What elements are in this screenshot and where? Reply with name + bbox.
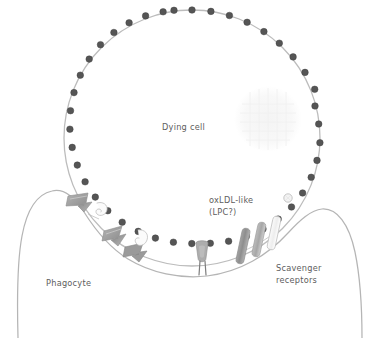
receptor-funnel-center	[196, 241, 208, 275]
phagocyte-label: Phagocyte	[46, 278, 91, 288]
receptor-arrow-3	[123, 243, 147, 262]
dying-cell-label: Dying cell	[162, 122, 205, 132]
scavenger-label-line1: Scavenger	[276, 263, 322, 273]
receptor-group-left	[66, 193, 148, 262]
oxldl-label-line1: oxLDL-like	[209, 195, 253, 205]
receptor-arrow-1	[66, 193, 92, 212]
scavenger-receptor-bar-3	[267, 216, 282, 251]
receptor-arrow-2	[102, 226, 126, 246]
phagocytosis-diagram: Dying cell Phagocyte oxLDL-like (LPC?) S…	[0, 0, 384, 338]
scavenger-receptor-bar-1	[235, 228, 250, 265]
scavenger-label-line2: receptors	[276, 275, 317, 285]
scavenger-receptor-bar-2	[251, 222, 266, 258]
diagram-canvas: Dying cell Phagocyte oxLDL-like (LPC?) S…	[0, 0, 384, 338]
oxldl-like-ligand-dot	[284, 194, 292, 202]
nucleus-blob	[234, 86, 302, 152]
oxldl-label-line2: (LPC?)	[209, 207, 236, 217]
